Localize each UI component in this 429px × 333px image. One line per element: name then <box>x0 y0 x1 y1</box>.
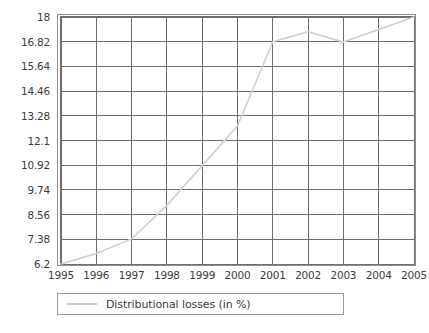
y-tick-label: 14.46 <box>21 86 50 97</box>
legend-label: Distributional losses (in %) <box>106 298 250 311</box>
x-tick-label: 1999 <box>189 269 215 281</box>
x-tick-label: 1995 <box>48 269 74 281</box>
x-axis: 1995199619971998199920002001200220032004… <box>57 269 416 285</box>
y-tick-label: 12.1 <box>27 136 50 147</box>
y-tick-label: 16.82 <box>21 37 50 48</box>
legend-line-swatch-icon <box>67 303 97 305</box>
x-tick-label: 1996 <box>83 269 109 281</box>
y-tick-label: 9.74 <box>27 185 50 196</box>
y-axis: 6.27.388.569.7410.9212.113.2814.4615.641… <box>0 14 50 266</box>
y-tick-label: 7.38 <box>27 234 50 245</box>
chart-figure: 6.27.388.569.7410.9212.113.2814.4615.641… <box>0 0 429 333</box>
y-tick-label: 13.28 <box>21 111 50 122</box>
x-tick-label: 2003 <box>330 269 356 281</box>
x-tick-label: 2002 <box>295 269 321 281</box>
y-tick-label: 10.92 <box>21 160 50 171</box>
x-tick-label: 1998 <box>154 269 180 281</box>
plot-area <box>57 14 416 266</box>
y-tick-label: 18 <box>37 12 50 23</box>
x-tick-label: 2004 <box>366 269 392 281</box>
x-tick-label: 2000 <box>225 269 251 281</box>
legend: Distributional losses (in %) <box>57 293 344 315</box>
y-tick-label: 8.56 <box>27 210 50 221</box>
y-tick-label: 15.64 <box>21 61 50 72</box>
x-tick-label: 2001 <box>260 269 286 281</box>
data-series-line <box>57 14 416 266</box>
x-tick-label: 1997 <box>119 269 145 281</box>
x-tick-label: 2005 <box>401 269 427 281</box>
